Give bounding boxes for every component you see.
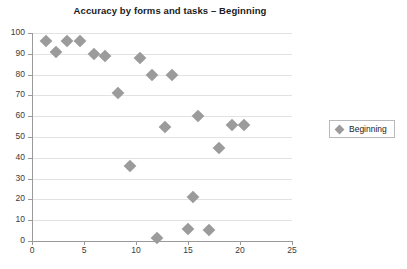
chart-title: Accuracy by forms and tasks – Beginning xyxy=(0,5,340,16)
y-tick-mark xyxy=(28,75,32,76)
y-tick-label: 30 xyxy=(3,174,25,183)
y-tick-label: 0 xyxy=(3,236,25,245)
gridline xyxy=(32,95,292,96)
gridline xyxy=(32,220,292,221)
y-tick-label: 90 xyxy=(3,49,25,58)
y-tick-label: 100 xyxy=(3,28,25,37)
x-axis-line xyxy=(32,241,292,242)
y-tick-mark xyxy=(28,199,32,200)
gridline xyxy=(32,179,292,180)
legend-entry-label: Beginning xyxy=(349,124,387,134)
gridline xyxy=(32,199,292,200)
x-tick-label: 10 xyxy=(126,246,146,255)
x-tick-label: 5 xyxy=(74,246,94,255)
y-tick-mark xyxy=(28,95,32,96)
y-tick-mark xyxy=(28,33,32,34)
chart-legend[interactable]: Beginning xyxy=(329,120,395,138)
y-tick-label: 10 xyxy=(3,215,25,224)
y-tick-label: 60 xyxy=(3,111,25,120)
y-tick-mark xyxy=(28,158,32,159)
diamond-marker-icon xyxy=(335,124,345,134)
y-tick-label: 70 xyxy=(3,90,25,99)
y-tick-label: 80 xyxy=(3,70,25,79)
y-tick-mark xyxy=(28,137,32,138)
plot-area xyxy=(32,33,292,241)
gridline xyxy=(32,75,292,76)
gridline xyxy=(32,116,292,117)
gridline xyxy=(32,158,292,159)
gridline xyxy=(32,137,292,138)
y-tick-mark xyxy=(28,116,32,117)
x-tick-label: 0 xyxy=(22,246,42,255)
y-axis-line xyxy=(32,33,33,242)
y-tick-label: 50 xyxy=(3,132,25,141)
x-tick-label: 20 xyxy=(230,246,250,255)
y-tick-mark xyxy=(28,54,32,55)
x-tick-label: 25 xyxy=(282,246,302,255)
y-tick-mark xyxy=(28,179,32,180)
y-tick-label: 20 xyxy=(3,194,25,203)
gridline xyxy=(32,54,292,55)
scatter-chart: Accuracy by forms and tasks – Beginning … xyxy=(0,0,407,269)
x-tick-label: 15 xyxy=(178,246,198,255)
y-tick-label: 40 xyxy=(3,153,25,162)
gridline xyxy=(32,33,292,34)
y-tick-mark xyxy=(28,220,32,221)
